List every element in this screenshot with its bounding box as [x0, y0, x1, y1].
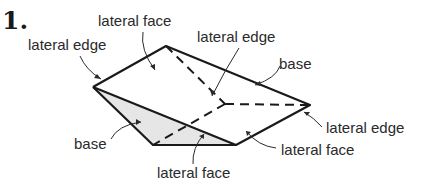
label-lateral-face-right: lateral face — [281, 142, 354, 157]
label-base-left: base — [74, 136, 107, 151]
label-lateral-face-top: lateral face — [98, 13, 171, 28]
prism-diagram: 1. lateral face lateral edge lateral edg… — [0, 0, 425, 187]
visible-edges — [93, 46, 310, 145]
label-base-right: base — [279, 56, 312, 71]
problem-number: 1. — [2, 6, 28, 35]
label-lateral-edge-right: lateral edge — [326, 120, 404, 135]
label-lateral-edge-center: lateral edge — [197, 29, 275, 44]
label-lateral-face-bottom: lateral face — [157, 165, 230, 180]
label-lateral-edge-left: lateral edge — [28, 37, 106, 52]
